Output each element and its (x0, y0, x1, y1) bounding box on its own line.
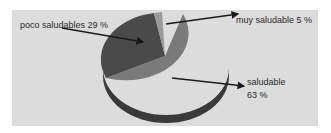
label-saludable: saludable (247, 77, 286, 88)
label-muy-saludable: muy saludable 5 % (236, 15, 312, 26)
label-saludable-value: 63 % (247, 90, 268, 101)
label-poco-saludables: poco saludables 29 % (20, 20, 108, 31)
